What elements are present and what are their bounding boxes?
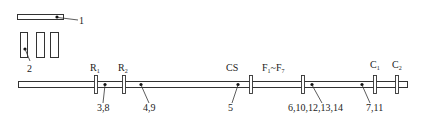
diagram-graphics [0,0,422,118]
callout-5: 5 [228,103,233,113]
callout-1: 1 [79,16,84,26]
flange-label-r1: R1 [90,63,100,76]
flange-label-cs: CS [226,63,238,73]
callout-4-9: 4,9 [143,103,156,113]
callout-3-8: 3,8 [97,103,110,113]
top-bar [18,15,79,21]
callout-6-10-12-13-14: 6,10,12,13,14 [288,103,343,113]
flange-label-r2: R2 [118,63,128,76]
rail-sensor-diagram: 1 2 R1 R2 CS F1~F7 C1 C2 3,8 4,9 5 6,10,… [0,0,422,118]
flange-label-f1-f7: F1~F7 [262,63,285,76]
box-group [21,33,59,62]
flange-label-c1: C1 [370,60,380,73]
callout-2: 2 [27,64,32,74]
main-rail [19,82,408,88]
callout-7-11: 7,11 [366,103,383,113]
flange-label-c2: C2 [392,60,402,73]
